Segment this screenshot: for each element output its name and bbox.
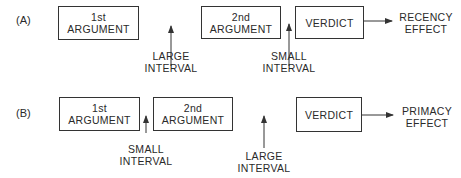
row-a-second-argument-box: 2nd ARGUMENT	[201, 6, 281, 39]
row-a-recency-effect-label: RECENCY EFFECT	[391, 11, 461, 35]
box-line: 1st	[91, 11, 106, 23]
interval-line: INTERVAL	[234, 162, 294, 174]
interval-line: INTERVAL	[259, 62, 319, 74]
row-b-second-argument-box: 2nd ARGUMENT	[153, 97, 233, 131]
row-a-large-interval-label: LARGE INTERVAL	[141, 50, 201, 74]
box-line: 2nd	[184, 102, 202, 114]
effect-line: RECENCY	[391, 11, 461, 23]
box-line: VERDICT	[305, 17, 353, 29]
row-b-large-interval-label: LARGE INTERVAL	[234, 150, 294, 174]
row-b-first-argument-box: 1st ARGUMENT	[59, 97, 140, 131]
row-b-verdict-box: VERDICT	[296, 97, 362, 132]
interval-line: INTERVAL	[116, 155, 176, 167]
box-line: ARGUMENT	[162, 114, 224, 126]
box-line: ARGUMENT	[67, 23, 129, 35]
box-line: 2nd	[232, 11, 250, 23]
interval-line: INTERVAL	[141, 62, 201, 74]
row-b-label: (B)	[16, 107, 31, 119]
effect-line: EFFECT	[393, 117, 461, 129]
row-a-first-argument-box: 1st ARGUMENT	[58, 6, 139, 40]
row-a-small-interval-label: SMALL INTERVAL	[259, 50, 319, 74]
effect-line: EFFECT	[391, 23, 461, 35]
interval-line: LARGE	[234, 150, 294, 162]
interval-line: LARGE	[141, 50, 201, 62]
box-line: VERDICT	[305, 109, 353, 121]
box-line: ARGUMENT	[68, 114, 130, 126]
effect-line: PRIMACY	[393, 105, 461, 117]
box-line: ARGUMENT	[210, 23, 272, 35]
row-b-small-interval-label: SMALL INTERVAL	[116, 143, 176, 167]
interval-line: SMALL	[259, 50, 319, 62]
row-a-verdict-box: VERDICT	[295, 6, 364, 39]
row-a-label: (A)	[16, 14, 31, 26]
box-line: 1st	[92, 102, 107, 114]
row-b-primacy-effect-label: PRIMACY EFFECT	[393, 105, 461, 129]
interval-line: SMALL	[116, 143, 176, 155]
